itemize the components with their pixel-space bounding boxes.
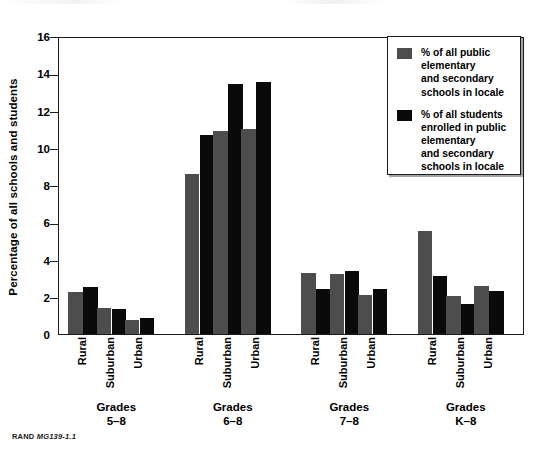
y-axis-tick-label: 16 <box>37 31 50 43</box>
x-axis-category-label-text: Urban <box>249 337 261 369</box>
x-axis-category-label: Rural <box>192 337 206 397</box>
x-axis-group-label-line2: K–8 <box>408 414 525 428</box>
bar <box>474 286 489 334</box>
x-axis-category-label: Rural <box>75 337 89 397</box>
scan-artifact <box>0 0 552 4</box>
x-axis-category-label-text: Urban <box>482 337 494 369</box>
legend-swatch-students <box>397 110 412 121</box>
source-note-prefix: RAND <box>12 432 34 441</box>
y-axis-tick <box>50 224 59 225</box>
x-axis-category-labels: RuralSuburbanUrbanRuralSuburbanUrbanRura… <box>58 337 524 399</box>
legend-swatch-schools <box>397 48 412 59</box>
x-axis-group-label: Grades6–8 <box>175 400 292 429</box>
bar <box>373 289 388 334</box>
y-axis-tick <box>50 261 59 262</box>
bar <box>213 131 228 334</box>
bar <box>185 174 200 334</box>
x-axis-group-label: GradesK–8 <box>408 400 525 429</box>
x-axis-group-label-line1: Grades <box>291 400 408 414</box>
bar <box>301 273 316 334</box>
x-axis-group-labels: Grades5–8Grades6–8Grades7–8GradesK–8 <box>58 400 524 432</box>
legend-label: % of all public elementary and secondary… <box>421 46 504 99</box>
x-axis-category-label: Suburban <box>336 337 350 397</box>
bar <box>68 292 83 334</box>
x-axis-category-label: Suburban <box>220 337 234 397</box>
y-axis-tick-label: 0 <box>44 329 50 341</box>
bar <box>97 308 112 334</box>
bar <box>140 318 155 334</box>
bar <box>241 129 256 334</box>
x-axis-category-label-text: Rural <box>76 337 88 365</box>
legend-entry: % of all students enrolled in public ele… <box>397 108 512 174</box>
y-axis-tick-labels: 0246810121416 <box>24 37 50 335</box>
x-axis-category-label-text: Urban <box>365 337 377 369</box>
x-axis-category-label-text: Suburban <box>454 337 466 388</box>
bar <box>358 295 373 334</box>
y-axis-tick <box>50 75 59 76</box>
x-axis-category-label: Urban <box>131 337 145 397</box>
x-axis-category-label: Urban <box>481 337 495 397</box>
x-axis-category-label: Rural <box>308 337 322 397</box>
bar <box>330 274 345 334</box>
bar <box>125 320 140 334</box>
x-axis-group-label-line1: Grades <box>175 400 292 414</box>
x-axis-category-label: Urban <box>364 337 378 397</box>
x-axis-group-label-line1: Grades <box>58 400 175 414</box>
x-axis-category-label: Suburban <box>103 337 117 397</box>
y-axis-title-text: Percentage of all schools and students <box>7 78 19 295</box>
x-axis-category-label-text: Suburban <box>337 337 349 388</box>
y-axis-tick-label: 10 <box>37 143 50 155</box>
source-note: RAND MG139-1.1 <box>12 432 76 441</box>
x-axis-category-label-text: Rural <box>309 337 321 365</box>
x-axis-category-label: Suburban <box>453 337 467 397</box>
x-axis-category-label-text: Urban <box>132 337 144 369</box>
x-axis-group-label-line2: 5–8 <box>58 414 175 428</box>
x-axis-category-label-text: Suburban <box>221 337 233 388</box>
y-axis-tick <box>50 112 59 113</box>
y-axis-title: Percentage of all schools and students <box>2 62 24 312</box>
x-axis-group-label-line2: 7–8 <box>291 414 408 428</box>
x-axis-category-label: Rural <box>425 337 439 397</box>
bar <box>418 231 433 334</box>
y-axis-tick <box>50 186 59 187</box>
chart-legend: % of all public elementary and secondary… <box>387 36 521 175</box>
x-axis-group-label: Grades7–8 <box>291 400 408 429</box>
bar <box>489 291 504 334</box>
x-axis-category-label: Urban <box>248 337 262 397</box>
y-axis-tick-label: 12 <box>37 106 50 118</box>
x-axis-group-label-line2: 6–8 <box>175 414 292 428</box>
x-axis-category-label-text: Suburban <box>104 337 116 388</box>
legend-entry: % of all public elementary and secondary… <box>397 46 512 99</box>
source-note-id: MG139-1.1 <box>37 432 76 441</box>
bar-chart-figure: Percentage of all schools and students 0… <box>0 0 552 452</box>
x-axis-group-label: Grades5–8 <box>58 400 175 429</box>
bar <box>256 82 271 334</box>
legend-label: % of all students enrolled in public ele… <box>421 108 506 174</box>
y-axis-tick-label: 14 <box>37 68 50 80</box>
x-axis-category-label-text: Rural <box>193 337 205 365</box>
y-axis-tick <box>50 298 59 299</box>
x-axis-group-label-line1: Grades <box>408 400 525 414</box>
bar <box>446 296 461 334</box>
y-axis-tick <box>50 37 59 38</box>
y-axis-tick <box>50 149 59 150</box>
x-axis-category-label-text: Rural <box>426 337 438 365</box>
